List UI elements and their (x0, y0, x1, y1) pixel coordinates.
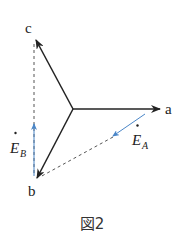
svg-text:E: E (131, 132, 141, 148)
label-EA: E A (131, 124, 149, 151)
phasor-c (36, 40, 73, 109)
svg-text:A: A (141, 140, 149, 151)
label-b: b (28, 183, 36, 199)
dashed-line-a-b (40, 137, 113, 177)
label-a: a (165, 101, 172, 117)
phasor-b (37, 109, 73, 178)
svg-text:B: B (20, 148, 26, 159)
label-EB: E B (9, 132, 26, 159)
phasor-diagram: c a b E A E B 図2 (0, 0, 183, 240)
label-c: c (25, 20, 32, 36)
figure-caption: 図2 (80, 215, 105, 233)
svg-text:E: E (9, 140, 19, 156)
